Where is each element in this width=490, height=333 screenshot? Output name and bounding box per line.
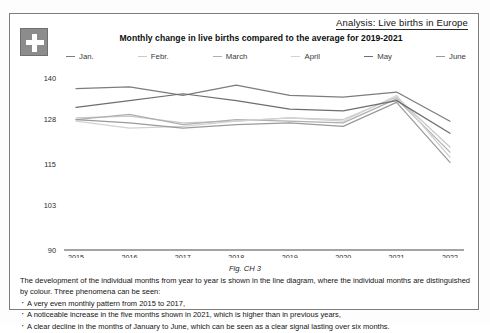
x-axis-tick-label: 2022	[442, 253, 458, 258]
legend-label: March	[226, 52, 248, 61]
chart-plot-area: 9010311512814020152016201720182019202020…	[20, 62, 472, 258]
chart-series-line-march	[76, 99, 450, 152]
x-axis-tick-label: 2021	[389, 253, 405, 258]
line-chart: 9010311512814020152016201720182019202020…	[20, 62, 472, 258]
figure-caption: Fig. CH 3	[10, 264, 480, 273]
legend-label: Jan.	[79, 52, 94, 61]
body-bullet: A very even monthly pattern from 2015 to…	[20, 299, 470, 310]
legend-item-may[interactable]: May	[364, 52, 392, 61]
x-axis-tick-label: 2018	[228, 253, 244, 258]
legend-item-june[interactable]: June	[436, 52, 466, 61]
y-axis-tick-label: 140	[44, 74, 56, 83]
legend-item-april[interactable]: April	[291, 52, 320, 61]
legend-swatch-icon	[436, 56, 445, 58]
legend-label: May	[377, 52, 392, 61]
y-axis-tick-label: 103	[44, 201, 56, 210]
y-axis-tick-label: 128	[44, 115, 56, 124]
legend-item-march[interactable]: March	[213, 52, 248, 61]
legend-swatch-icon	[291, 56, 300, 58]
y-axis-tick-label: 90	[48, 246, 56, 255]
body-paragraph: The development of the individual months…	[20, 276, 470, 297]
x-axis-tick-label: 2016	[121, 253, 137, 258]
chart-legend: Jan.Febr.MarchAprilMayJune	[58, 52, 470, 61]
legend-swatch-icon	[213, 56, 222, 58]
chart-series-line-june	[76, 102, 450, 162]
chart-title: Monthly change in live births compared t…	[58, 33, 464, 43]
legend-item-febr[interactable]: Febr.	[138, 52, 169, 61]
body-bullet: A clear decline in the months of January…	[20, 322, 470, 333]
legend-swatch-icon	[138, 56, 147, 58]
swiss-flag-icon	[20, 28, 48, 56]
flag-cross-horizontal	[26, 40, 44, 45]
x-axis-tick-label: 2019	[282, 253, 298, 258]
body-bullet-list: A very even monthly pattern from 2015 to…	[20, 299, 470, 333]
body-bullet: A noticeable increase in the five months…	[20, 310, 470, 321]
legend-label: April	[304, 52, 320, 61]
legend-swatch-icon	[364, 56, 373, 58]
legend-label: June	[449, 52, 466, 61]
legend-item-jan[interactable]: Jan.	[66, 52, 94, 61]
legend-label: Febr.	[151, 52, 169, 61]
analysis-heading: Analysis: Live births in Europe	[336, 17, 468, 30]
legend-swatch-icon	[66, 56, 75, 58]
y-axis-tick-label: 115	[44, 160, 56, 169]
body-text: The development of the individual months…	[20, 276, 470, 333]
x-axis-tick-label: 2020	[335, 253, 351, 258]
x-axis-tick-label: 2017	[175, 253, 191, 258]
x-axis-tick-label: 2015	[68, 253, 84, 258]
figure-frame: Analysis: Live births in Europe Monthly …	[9, 13, 479, 310]
